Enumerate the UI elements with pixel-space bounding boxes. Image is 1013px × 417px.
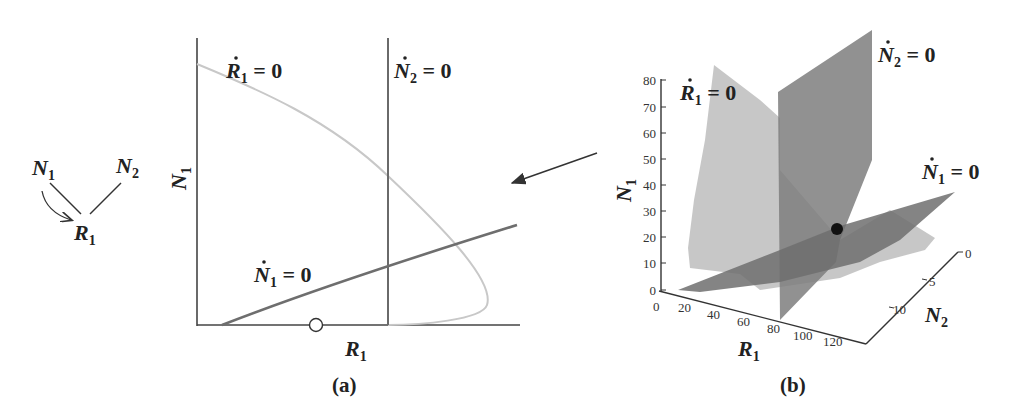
n1-plane-label: N1 = 0	[921, 159, 979, 187]
y-axis-label-3d: N1	[611, 179, 639, 203]
edge-n2-r1	[90, 183, 121, 214]
consumption-arrow	[42, 191, 71, 220]
n2b-dot-accent	[886, 40, 890, 44]
node-n1: N1	[31, 155, 55, 183]
svg-text:5: 5	[929, 274, 936, 289]
svg-text:80: 80	[767, 321, 780, 336]
svg-text:20: 20	[643, 230, 656, 245]
y-ticks: 0 10 20 30 40 50 60 70 80	[643, 73, 666, 298]
svg-text:80: 80	[643, 73, 656, 88]
n2-nullcline-label: N2 = 0	[393, 58, 451, 86]
n2-dot-accent	[403, 56, 407, 60]
node-n2: N2	[115, 153, 139, 181]
panel-b: 0 10 20 30 40 50 60 70 80 0 20 40 60 80 …	[611, 30, 979, 397]
z-axis-3d	[866, 252, 958, 344]
n1-nullcline-label: N1 = 0	[253, 262, 311, 290]
x-axis-label: R1	[344, 336, 367, 364]
panel-link-arrow	[512, 153, 597, 183]
caption-a: (a)	[332, 373, 357, 397]
svg-text:100: 100	[793, 328, 813, 343]
unstable-equilibrium-marker	[310, 319, 323, 332]
svg-text:30: 30	[643, 204, 656, 219]
svg-text:40: 40	[643, 178, 656, 193]
edge-n1-r1	[50, 183, 81, 214]
svg-text:60: 60	[643, 126, 656, 141]
svg-text:20: 20	[678, 300, 691, 315]
svg-text:40: 40	[707, 307, 720, 322]
svg-text:60: 60	[737, 314, 750, 329]
r1-surface-label: R1 = 0	[679, 80, 736, 108]
figure: N1 N2 R1 R1 = 0 N2 = 0 N1 = 0 R1 N1 (a)	[0, 0, 1013, 417]
svg-text:0: 0	[650, 283, 657, 298]
y-axis-label: N1	[166, 167, 194, 191]
stable-equilibrium-marker	[831, 223, 843, 235]
svg-text:120: 120	[823, 334, 843, 349]
r1-nullcline-label: R1 = 0	[225, 58, 282, 86]
r1-dot-accent	[234, 56, 238, 60]
r1b-dot-accent	[688, 78, 692, 82]
svg-text:70: 70	[643, 100, 656, 115]
svg-text:50: 50	[643, 152, 656, 167]
network-diagram: N1 N2 R1	[31, 153, 139, 248]
panel-a: R1 = 0 N2 = 0 N1 = 0 R1 N1 (a)	[166, 38, 520, 397]
svg-text:0: 0	[653, 299, 660, 314]
n1b-dot-accent	[930, 157, 934, 161]
x-axis-label-3d: R1	[737, 336, 760, 364]
svg-text:10: 10	[893, 302, 906, 317]
svg-text:0: 0	[965, 246, 972, 261]
z-axis-label-3d: N2	[924, 302, 948, 330]
r1-nullcline-curve	[197, 64, 488, 325]
node-r1: R1	[73, 220, 96, 248]
caption-b: (b)	[780, 373, 806, 397]
svg-text:10: 10	[643, 256, 656, 271]
n2-plane-label: N2 = 0	[877, 42, 935, 70]
n1-dot-accent	[262, 260, 266, 264]
